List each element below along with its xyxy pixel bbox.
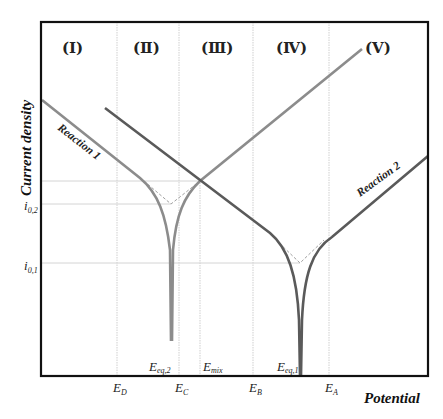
- y-tick-i01: i0,1: [24, 258, 38, 275]
- evans-diagram: (Ⅰ) (Ⅱ) (Ⅲ) (Ⅳ) (Ⅴ) Reaction 1 Reaction …: [0, 0, 443, 419]
- reaction-2-label: Reaction 2: [353, 159, 402, 199]
- region-label-4: (Ⅳ): [276, 39, 307, 57]
- region-label-2: (Ⅱ): [133, 39, 160, 57]
- y-axis-title: Current density: [18, 99, 34, 196]
- x-tick-EB: EB: [248, 380, 262, 397]
- x-tick-EA: EA: [324, 380, 338, 397]
- y-tick-i02: i0,2: [24, 198, 38, 215]
- region-label-3: (Ⅲ): [201, 39, 233, 57]
- x-tick-ED: ED: [112, 380, 127, 397]
- label-Eeq2: Eeq,2: [148, 359, 171, 375]
- label-Eeq1: Eeq,1: [276, 359, 299, 375]
- region-label-5: (Ⅴ): [365, 39, 391, 57]
- x-axis-title: Potential: [364, 390, 421, 406]
- curve-reaction-2: [105, 108, 428, 376]
- x-tick-EC: EC: [174, 380, 189, 397]
- label-Emix: Emix: [202, 359, 223, 375]
- curve-reaction-1: [42, 49, 362, 341]
- region-label-1: (Ⅰ): [62, 39, 83, 57]
- plot-frame: [41, 22, 428, 376]
- reaction-1-label: Reaction 1: [55, 121, 103, 162]
